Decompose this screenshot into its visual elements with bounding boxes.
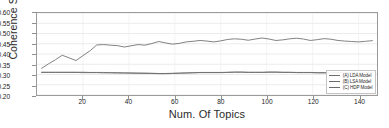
y-tick-label: 0.50 [0, 30, 10, 37]
legend-item: (A) LDA Model [329, 73, 372, 79]
y-tick-mark [32, 96, 36, 97]
x-tick-mark [267, 96, 268, 100]
y-tick-label: 0.60 [0, 9, 10, 16]
x-axis-title: Num. Of Topics [36, 108, 378, 120]
y-tick-label: 0.30 [0, 72, 10, 79]
x-tick-mark [221, 96, 222, 100]
legend-label: (B) LSA Model [343, 79, 371, 85]
x-tick-mark [175, 96, 176, 100]
x-tick-mark [313, 96, 314, 100]
y-tick-label: 0.20 [0, 93, 10, 100]
legend-label: (C) HDP Model [343, 85, 373, 91]
y-tick-label: 0.45 [0, 40, 10, 47]
y-tick-label: 0.35 [0, 61, 10, 68]
y-tick-label: 0.55 [0, 19, 10, 26]
legend-item: (C) HDP Model [329, 85, 372, 91]
plot-area: (A) LDA Model(B) LSA Model(C) HDP Model [36, 12, 378, 96]
coherence-score-line-chart: Coherence Score 0.200.250.300.350.400.45… [0, 0, 389, 128]
series-line-1 [42, 38, 373, 68]
legend-label: (A) LDA Model [343, 73, 372, 79]
legend-item: (B) LSA Model [329, 79, 372, 85]
legend-line-swatch [329, 87, 340, 88]
legend: (A) LDA Model(B) LSA Model(C) HDP Model [326, 70, 376, 94]
y-tick-label: 0.25 [0, 82, 10, 89]
x-tick-mark [360, 96, 361, 100]
x-tick-mark [82, 96, 83, 100]
y-tick-label: 0.40 [0, 51, 10, 58]
series-line-3 [42, 72, 373, 73]
legend-line-swatch [329, 75, 340, 76]
legend-line-swatch [329, 81, 340, 82]
x-tick-mark [128, 96, 129, 100]
